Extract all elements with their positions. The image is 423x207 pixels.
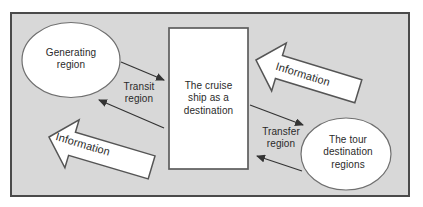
transit-region-label: Transit region [109,81,169,105]
cruise-ship-label: The cruise ship as a destination [169,80,248,117]
transfer-region-label: Transfer region [251,126,311,150]
diagram-figure: Generating region The cruise ship as a d… [0,0,423,207]
generating-region-label: Generating region [21,47,121,72]
tour-destination-label: The tour destination regions [298,134,398,171]
